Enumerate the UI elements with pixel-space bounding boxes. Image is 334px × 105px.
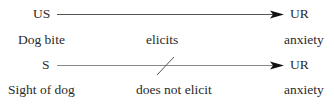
label-anxiety-top: anxiety [284,32,324,48]
label-dog-bite: Dog bite [18,32,65,48]
label-elicits: elicits [146,32,178,48]
arrow-us-to-ur [57,11,284,19]
label-us: US [33,6,50,22]
label-ur-bottom: UR [290,57,309,73]
label-s: S [42,57,50,73]
arrow-s-to-ur [57,62,284,70]
label-does-not-elicit: does not elicit [136,82,212,98]
label-anxiety-bottom: anxiety [284,82,324,98]
label-sight-of-dog: Sight of dog [8,82,75,98]
label-ur-top: UR [290,6,309,22]
